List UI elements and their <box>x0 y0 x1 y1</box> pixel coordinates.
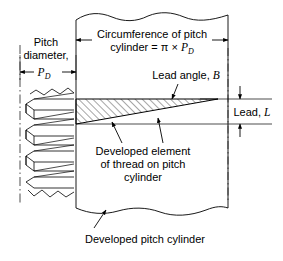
pitch-symbol-p: P <box>37 66 45 78</box>
lead-symbol: L <box>263 106 270 118</box>
bottom-break-line <box>76 207 228 216</box>
lead-angle-text: Lead angle, <box>152 69 213 81</box>
developed-pitch-cylinder-label: Developed pitch cylinder <box>85 233 205 245</box>
times-symbol: × <box>168 41 181 53</box>
developed-element-label-line1: Developed element <box>96 145 191 157</box>
lead-label: Lead, L <box>234 106 271 118</box>
developed-element-leaders <box>112 118 163 143</box>
lead-angle-label: Lead angle, B <box>152 69 220 81</box>
lead-text: Lead, <box>234 106 265 118</box>
circumference-label-line1: Circumference of pitch <box>97 28 207 40</box>
technical-diagram-figure: Circumference of pitch cylinder = π × PD… <box>0 0 283 261</box>
pd-subscript: D <box>187 47 194 56</box>
developed-element-label-line3: cylinder <box>124 171 162 183</box>
pitch-diameter-symbol: PD <box>37 66 51 81</box>
circumference-prefix: cylinder = <box>110 41 160 53</box>
developed-element-label-line2: of thread on pitch <box>100 158 185 170</box>
circumference-label-line2: cylinder = π × PD <box>110 41 194 56</box>
pitch-symbol-sub: D <box>44 72 51 81</box>
lead-angle-symbol: B <box>213 69 220 81</box>
pd-symbol: P <box>180 41 188 53</box>
screw-thread-profile <box>26 88 74 197</box>
developed-pitch-cylinder-diagram: Circumference of pitch cylinder = π × PD… <box>0 0 283 261</box>
developed-thread-element-wedge <box>76 99 218 124</box>
pitch-diameter-label-line1: Pitch <box>34 36 58 48</box>
top-break-line <box>76 13 228 21</box>
lead-angle-leader <box>172 84 178 99</box>
pitch-diameter-label-line2: diameter, <box>23 49 68 61</box>
